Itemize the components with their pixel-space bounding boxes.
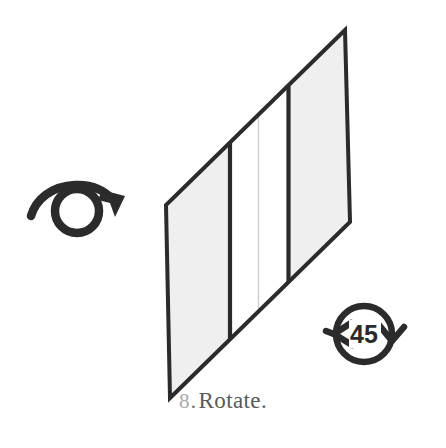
rotate-gesture-ring [55,189,99,233]
rotation-angle-badge: 45 [326,306,404,362]
band-center-white [231,0,289,448]
angle-badge-value: 45 [350,320,378,348]
figure-caption: 8.Rotate. [0,388,446,414]
caption-label: Rotate. [198,388,267,413]
rotate-gesture-figure: 45 8.Rotate. [0,0,446,448]
caption-index: 8 [179,389,190,413]
rotating-panel-shape [166,0,350,448]
figure-canvas: 45 [0,0,446,448]
rotate-gesture-icon [31,185,125,233]
